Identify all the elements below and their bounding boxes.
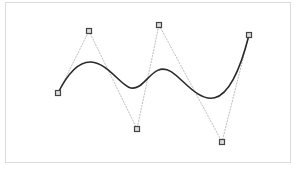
- control-point-handle[interactable]: [220, 140, 225, 145]
- control-points: [56, 23, 252, 145]
- spline-curve: [58, 35, 249, 98]
- control-point-handle[interactable]: [247, 33, 252, 38]
- control-point-handle[interactable]: [87, 29, 92, 34]
- control-point-handle[interactable]: [135, 127, 140, 132]
- control-point-handle[interactable]: [56, 91, 61, 96]
- spline-canvas: [0, 0, 295, 169]
- control-point-handle[interactable]: [157, 23, 162, 28]
- control-polygon: [58, 25, 249, 142]
